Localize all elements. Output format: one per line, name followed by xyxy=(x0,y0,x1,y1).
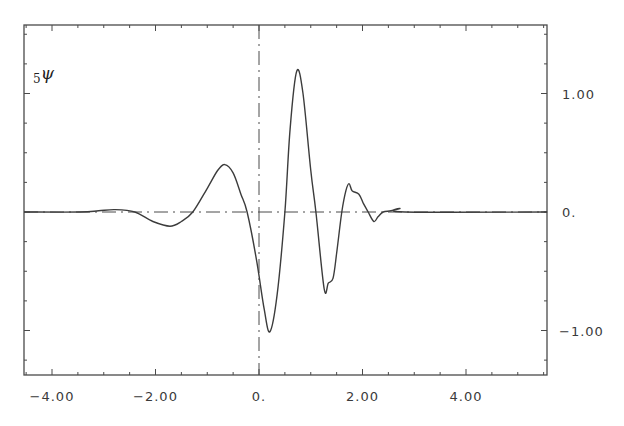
y-tick-label: 1.00 xyxy=(562,87,595,102)
curve-label-subscript: 5 xyxy=(33,72,41,86)
x-tick-label: −2.00 xyxy=(133,389,178,404)
x-tick-label: −4.00 xyxy=(30,389,75,404)
x-tick-label: 2.00 xyxy=(346,389,379,404)
wavelet-chart: −4.00−2.000.2.004.001.000.−1.00 5ψ xyxy=(0,0,624,426)
curve-label-symbol: ψ xyxy=(41,63,55,83)
tick-labels: −4.00−2.000.2.004.001.000.−1.00 xyxy=(30,87,604,405)
x-tick-label: 0. xyxy=(252,389,266,404)
y-tick-label: 0. xyxy=(562,205,576,220)
curve-label: 5ψ xyxy=(33,63,55,86)
y-tick-label: −1.00 xyxy=(559,324,604,339)
wavelet-curve xyxy=(24,69,547,332)
x-tick-label: 4.00 xyxy=(450,389,483,404)
